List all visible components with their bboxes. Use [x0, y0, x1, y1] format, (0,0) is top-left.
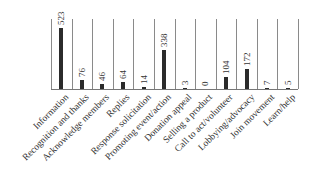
gridline [113, 19, 114, 89]
bar-chart: 523Information76Recognition and thanks46… [0, 0, 311, 183]
data-label: 0 [200, 82, 210, 87]
bar [100, 84, 104, 89]
bar [224, 77, 228, 89]
data-label: 46 [97, 72, 107, 81]
gridline [298, 19, 299, 89]
data-label: 104 [221, 61, 231, 75]
gridline [257, 19, 258, 89]
gridline [195, 19, 196, 89]
data-label: 64 [118, 70, 128, 79]
x-axis-line [51, 89, 298, 90]
gridline [154, 19, 155, 89]
data-label: 14 [139, 75, 149, 84]
gridline [277, 19, 278, 89]
bar [59, 28, 63, 89]
bar [80, 80, 84, 89]
data-label: 7 [262, 81, 272, 86]
gridline [92, 19, 93, 89]
data-label: 5 [283, 81, 293, 86]
data-label: 338 [159, 34, 169, 48]
bar [121, 82, 125, 89]
bar [245, 69, 249, 89]
gridline [175, 19, 176, 89]
data-label: 76 [77, 68, 87, 77]
gridline [133, 19, 134, 89]
bar [183, 88, 187, 89]
data-label: 3 [180, 81, 190, 86]
gridline [51, 19, 52, 89]
data-label: 523 [56, 12, 66, 26]
data-label: 172 [242, 53, 252, 67]
bar [142, 87, 146, 89]
bar [286, 88, 290, 89]
bar [162, 50, 166, 89]
gridline [236, 19, 237, 89]
gridline [72, 19, 73, 89]
bar [265, 88, 269, 89]
gridline [216, 19, 217, 89]
